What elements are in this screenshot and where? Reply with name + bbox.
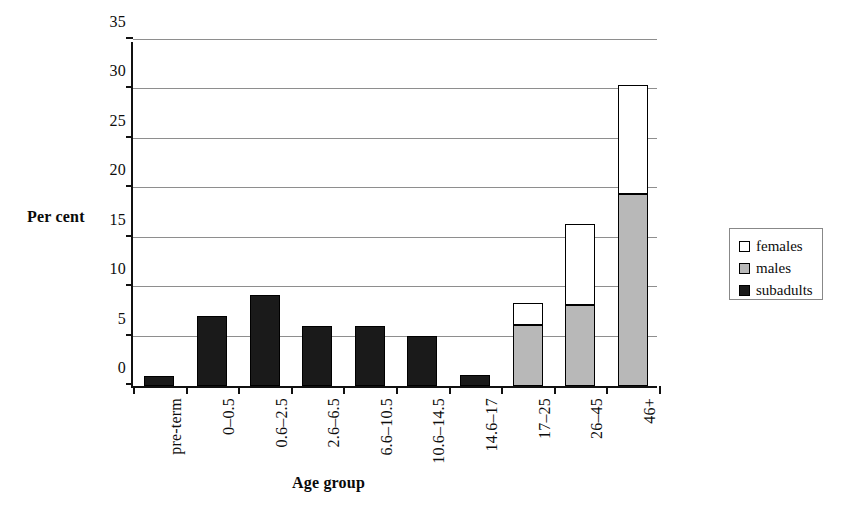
bar-segment-males	[513, 325, 543, 386]
x-tick-mark	[449, 386, 451, 394]
x-tick-label: 10.6–14.5	[430, 398, 448, 464]
x-tick-mark	[291, 386, 293, 394]
x-tick-mark	[133, 386, 135, 394]
x-tick-label: 0.6–2.5	[273, 398, 291, 447]
x-tick-label: 17–25	[536, 398, 554, 439]
y-tick-mark	[126, 185, 133, 187]
legend: femalesmalessubadults	[729, 228, 823, 300]
bar-segment-males	[618, 194, 648, 386]
x-tick-mark	[606, 386, 608, 394]
y-tick-label: 35	[109, 13, 126, 31]
bar-6-6-10-5	[355, 326, 385, 386]
bar-segment-females	[565, 224, 595, 305]
legend-item-females: females	[739, 236, 822, 256]
x-tick-label: 46+	[641, 398, 659, 424]
bar-pre-term	[144, 376, 174, 386]
bar-46-	[618, 85, 648, 387]
bar-segment-subadults	[355, 326, 385, 386]
x-tick-label: 6.6–10.5	[378, 398, 396, 456]
legend-item-males: males	[739, 258, 822, 278]
x-tick-mark	[501, 386, 503, 394]
bar-segment-subadults	[302, 326, 332, 386]
y-tick-label: 15	[109, 211, 126, 229]
y-tick-label: 10	[109, 260, 126, 278]
legend-label: males	[756, 260, 791, 277]
y-tick-label: 0	[118, 359, 126, 377]
x-tick-mark	[659, 386, 661, 394]
y-tick-label: 20	[109, 161, 126, 179]
y-tick-mark	[126, 235, 133, 237]
bar-0-6-2-5	[250, 295, 280, 386]
bar-17-25	[513, 303, 543, 386]
bar-segment-subadults	[144, 376, 174, 386]
x-tick-mark	[186, 386, 188, 394]
x-tick-mark	[554, 386, 556, 394]
bar-segment-females	[513, 303, 543, 325]
y-tick-mark	[126, 383, 133, 385]
x-tick-label: 2.6–6.5	[325, 398, 343, 447]
x-tick-label: 14.6–17	[483, 398, 501, 451]
bar-segment-subadults	[407, 336, 437, 386]
x-tick-mark	[396, 386, 398, 394]
x-tick-label: pre-term	[167, 398, 185, 455]
legend-label: females	[756, 238, 803, 255]
bar-segment-subadults	[250, 295, 280, 386]
bar-2-6-6-5	[302, 326, 332, 386]
y-tick-label: 25	[109, 112, 126, 130]
y-tick-mark	[126, 136, 133, 138]
legend-swatch-icon	[739, 285, 750, 296]
y-tick-label: 5	[118, 310, 126, 328]
x-tick-mark	[343, 386, 345, 394]
y-tick-mark	[126, 86, 133, 88]
bar-26-45	[565, 224, 595, 386]
legend-label: subadults	[756, 282, 813, 299]
y-axis-title: Per cent	[27, 208, 85, 226]
x-axis-title: Age group	[0, 474, 657, 492]
plot-area: 05101520253035 pre-term0–0.50.6–2.52.6–6…	[131, 42, 657, 388]
y-tick-label: 30	[109, 62, 126, 80]
bar-14-6-17	[460, 375, 490, 386]
bar-10-6-14-5	[407, 336, 437, 386]
legend-swatch-icon	[739, 241, 750, 252]
x-tick-label: 26–45	[588, 398, 606, 439]
gridline	[133, 88, 657, 89]
chart-figure: Per cent 05101520253035 pre-term0–0.50.6…	[0, 0, 858, 512]
gridline	[133, 39, 657, 40]
gridline	[133, 187, 657, 188]
x-tick-label: 0–0.5	[220, 398, 238, 435]
bar-0-0-5	[197, 316, 227, 386]
legend-item-subadults: subadults	[739, 280, 822, 300]
y-tick-mark	[126, 284, 133, 286]
x-tick-mark	[238, 386, 240, 394]
y-tick-mark	[126, 37, 133, 39]
bar-segment-subadults	[197, 316, 227, 386]
legend-swatch-icon	[739, 263, 750, 274]
gridline	[133, 138, 657, 139]
bar-segment-males	[565, 305, 595, 386]
y-tick-mark	[126, 334, 133, 336]
bar-segment-females	[618, 85, 648, 195]
bar-segment-subadults	[460, 375, 490, 386]
